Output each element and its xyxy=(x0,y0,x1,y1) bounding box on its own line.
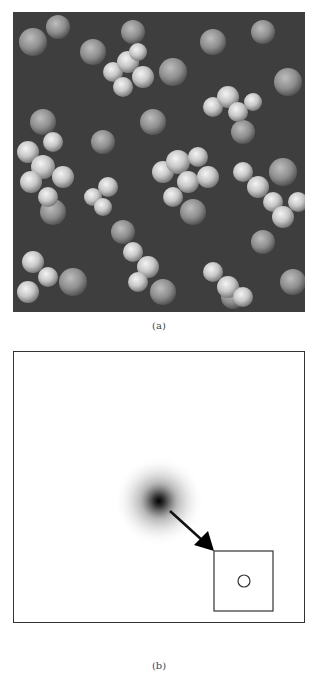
particle-cluster-image xyxy=(13,12,305,312)
diffraction-spot-diagram xyxy=(14,352,304,622)
inset-circle xyxy=(238,575,250,587)
panel-b-diagram xyxy=(13,351,305,623)
intensity-spot xyxy=(114,456,204,546)
caption-b: (b) xyxy=(0,660,318,671)
panel-a-micrograph xyxy=(13,12,305,312)
caption-a: (a) xyxy=(0,320,318,331)
inset-box xyxy=(214,551,273,611)
